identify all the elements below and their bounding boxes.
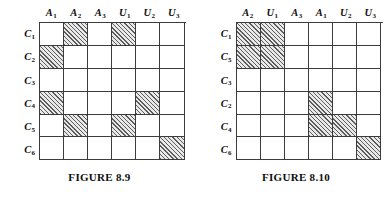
- matrix-cell-empty: [136, 46, 160, 69]
- matrix-cell-empty: [160, 69, 184, 92]
- matrix-cell-empty: [357, 69, 381, 92]
- matrix-cell-empty: [64, 46, 88, 69]
- matrix-cell-empty: [136, 69, 160, 92]
- matrix-cell-shaded: [40, 46, 64, 69]
- matrix-cell-empty: [88, 137, 112, 160]
- row-label-subscript: 6: [32, 149, 36, 157]
- column-header-subscript: 3: [299, 12, 303, 20]
- matrix-cell-empty: [88, 69, 112, 92]
- column-header-subscript: 2: [151, 12, 155, 20]
- matrix-cell-empty: [333, 69, 357, 92]
- figure-1: C1C2C3C4C5C6A1A2A3U1U2U3FIGURE 8.9: [0, 0, 195, 198]
- matrix-1: C1C2C3C4C5C6A1A2A3U1U2U3: [13, 6, 186, 162]
- row-label-subscript: 4: [32, 102, 36, 110]
- column-header: U1: [113, 6, 138, 22]
- matrix-cell-shaded: [237, 23, 261, 46]
- matrix-row: [237, 23, 383, 46]
- matrix-cell-shaded: [64, 115, 88, 138]
- row-label: C5: [210, 45, 236, 68]
- matrix-row: [237, 115, 383, 138]
- matrix-cell-empty: [112, 69, 136, 92]
- matrix-row: [40, 92, 186, 115]
- matrix-row: [237, 137, 383, 160]
- row-label: C5: [13, 115, 39, 138]
- column-header: U3: [162, 6, 187, 22]
- row-label-column: C1C2C3C4C5C6: [13, 6, 39, 162]
- column-header: A2: [64, 6, 89, 22]
- matrix-cell-empty: [261, 137, 285, 160]
- matrix-cell-empty: [285, 23, 309, 46]
- row-label-column: C1C5C3C2C4C6: [210, 6, 236, 162]
- column-header: U2: [334, 6, 359, 22]
- row-label: C2: [210, 92, 236, 115]
- matrix-row: [40, 137, 186, 160]
- matrix-cell-empty: [160, 92, 184, 115]
- column-header-strip: A1A2A3U1U2U3: [39, 6, 186, 22]
- matrix-cell-empty: [112, 92, 136, 115]
- matrix-row: [237, 92, 383, 115]
- matrix-cell-empty: [64, 92, 88, 115]
- matrix-cell-empty: [88, 115, 112, 138]
- matrix-row: [40, 23, 186, 46]
- figures-row: C1C2C3C4C5C6A1A2A3U1U2U3FIGURE 8.9C1C5C3…: [0, 0, 391, 198]
- matrix-cell-empty: [112, 46, 136, 69]
- matrix-cell-empty: [309, 23, 333, 46]
- row-label: C6: [210, 138, 236, 161]
- matrix-cell-shaded: [357, 137, 381, 160]
- matrix-cell-shaded: [333, 115, 357, 138]
- matrix-cell-empty: [309, 69, 333, 92]
- column-header-subscript: 2: [348, 12, 352, 20]
- column-header-subscript: 2: [250, 12, 254, 20]
- matrix-cell-empty: [357, 115, 381, 138]
- column-header-subscript: 1: [53, 12, 57, 20]
- matrix-cell-empty: [88, 46, 112, 69]
- column-header: U2: [137, 6, 162, 22]
- matrix-cell-empty: [40, 115, 64, 138]
- column-header: A1: [39, 6, 64, 22]
- matrix-cell-shaded: [160, 137, 184, 160]
- row-label: C1: [13, 22, 39, 45]
- figure-2: C1C5C3C2C4C6A2U1A3A1U2U3FIGURE 8.10: [195, 0, 391, 198]
- matrix-cell-empty: [357, 23, 381, 46]
- matrix-cell-empty: [285, 69, 309, 92]
- matrix-cell-shaded: [40, 92, 64, 115]
- matrix-cell-empty: [285, 92, 309, 115]
- column-header-subscript: 2: [78, 12, 82, 20]
- matrix-cell-empty: [237, 92, 261, 115]
- matrix-cell-empty: [160, 115, 184, 138]
- column-header-subscript: 3: [372, 12, 376, 20]
- matrix-cell-shaded: [309, 115, 333, 138]
- matrix-cell-empty: [40, 23, 64, 46]
- matrix-row: [237, 69, 383, 92]
- matrix-2: C1C5C3C2C4C6A2U1A3A1U2U3: [210, 6, 383, 162]
- matrix-cell-empty: [237, 69, 261, 92]
- matrix-cell-empty: [136, 115, 160, 138]
- matrix-cell-empty: [40, 69, 64, 92]
- row-label: C3: [210, 69, 236, 92]
- column-header: A2: [236, 6, 261, 22]
- matrix-cell-empty: [333, 46, 357, 69]
- row-label-subscript: 3: [32, 79, 36, 87]
- matrix-cell-empty: [88, 23, 112, 46]
- matrix-cell-empty: [261, 92, 285, 115]
- figure-caption: FIGURE 8.10: [262, 171, 330, 183]
- grid-column: A2U1A3A1U2U3: [236, 6, 383, 160]
- matrix-cell-empty: [64, 137, 88, 160]
- matrix-cell-shaded: [309, 92, 333, 115]
- row-label-subscript: 6: [228, 149, 232, 157]
- row-label: C3: [13, 69, 39, 92]
- figure-caption: FIGURE 8.9: [68, 171, 130, 183]
- matrix-cell-empty: [261, 69, 285, 92]
- column-header-subscript: 3: [102, 12, 106, 20]
- matrix-cell-shaded: [112, 23, 136, 46]
- column-header-subscript: 1: [323, 12, 327, 20]
- column-header: U3: [358, 6, 383, 22]
- matrix-cell-empty: [285, 115, 309, 138]
- matrix-cell-empty: [285, 137, 309, 160]
- matrix-cell-empty: [333, 137, 357, 160]
- column-header-subscript: 3: [176, 12, 180, 20]
- matrix-cell-empty: [237, 115, 261, 138]
- row-label-subscript: 3: [228, 79, 232, 87]
- matrix-cell-empty: [261, 115, 285, 138]
- row-label: C4: [13, 92, 39, 115]
